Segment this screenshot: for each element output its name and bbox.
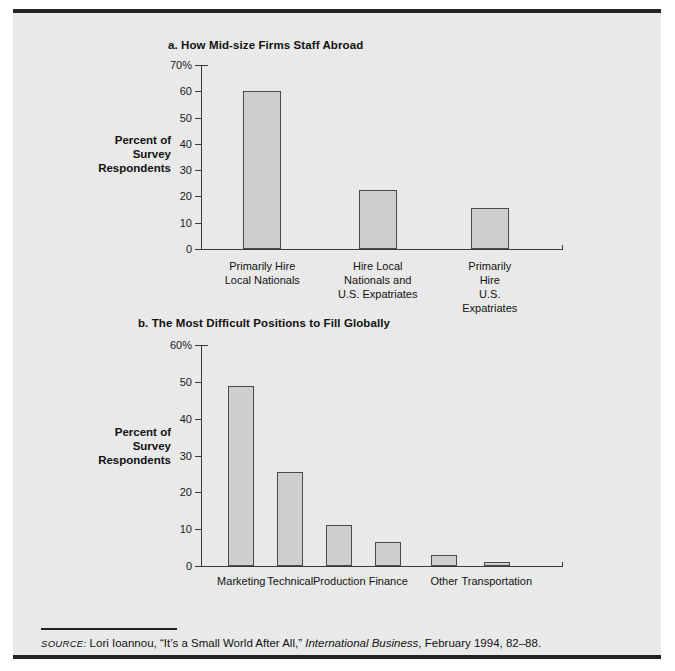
chart-a-y-tick-label: 50 bbox=[180, 112, 192, 124]
chart-b-y-tick-label: 50 bbox=[180, 376, 192, 388]
chart-b-x-axis bbox=[201, 566, 563, 567]
chart-a-y-tick bbox=[195, 65, 201, 66]
category-label: Technical bbox=[267, 574, 313, 588]
category-label: Primarily Hire U.S. Expatriates bbox=[459, 259, 520, 315]
category-label: Production bbox=[313, 574, 366, 588]
chart-b-y-tick bbox=[195, 382, 201, 383]
bar bbox=[228, 386, 254, 566]
bar bbox=[277, 472, 303, 566]
chart-b-title: b. The Most Difficult Positions to Fill … bbox=[138, 317, 390, 329]
chart-a-y-tick bbox=[195, 91, 201, 92]
chart-b-y-tick-label: 10 bbox=[180, 523, 192, 535]
chart-b-y-axis-cap bbox=[201, 345, 208, 346]
chart-b-y-tick bbox=[195, 456, 201, 457]
chart-a-y-axis-title: Percent of Survey Respondents bbox=[51, 133, 171, 175]
chart-b: b. The Most Difficult Positions to Fill … bbox=[13, 313, 661, 613]
chart-a-x-axis-end-tick bbox=[562, 245, 563, 250]
category-label: Hire Local Nationals and U.S. Expatriate… bbox=[338, 259, 417, 301]
source-label: SOURCE: bbox=[41, 638, 86, 649]
chart-b-y-axis-title: Percent of Survey Respondents bbox=[51, 425, 171, 467]
bar bbox=[243, 91, 281, 249]
chart-b-y-tick-label: 0 bbox=[186, 560, 192, 572]
chart-a-y-tick bbox=[195, 196, 201, 197]
chart-a-y-tick bbox=[195, 249, 201, 250]
chart-a-y-tick bbox=[195, 144, 201, 145]
chart-a-y-tick-label: 70% bbox=[170, 59, 192, 71]
chart-a-plot-area: 010203040506070%Primarily Hire Local Nat… bbox=[201, 65, 551, 250]
chart-a-y-tick-label: 20 bbox=[180, 190, 192, 202]
source-divider bbox=[41, 628, 177, 630]
source-rest: , February 1994, 82–88. bbox=[418, 637, 541, 649]
figure-page: a. How Mid-size Firms Staff Abroad 01020… bbox=[13, 9, 661, 659]
chart-b-y-tick bbox=[195, 345, 201, 346]
chart-a-y-tick bbox=[195, 170, 201, 171]
chart-a-y-axis bbox=[201, 65, 202, 250]
chart-a-x-axis bbox=[201, 249, 563, 250]
source-author: Lori Ioannou, “It’s a Small World After … bbox=[86, 637, 305, 649]
chart-b-y-tick-label: 30 bbox=[180, 450, 192, 462]
chart-b-y-tick bbox=[195, 566, 201, 567]
chart-a-y-tick-label: 30 bbox=[180, 164, 192, 176]
chart-b-y-tick bbox=[195, 529, 201, 530]
chart-a-y-tick-label: 10 bbox=[180, 217, 192, 229]
category-label: Finance bbox=[369, 574, 408, 588]
category-label: Primarily Hire Local Nationals bbox=[225, 259, 300, 287]
category-label: Other bbox=[430, 574, 458, 588]
chart-b-y-tick bbox=[195, 419, 201, 420]
source-publication: International Business bbox=[305, 637, 418, 649]
chart-a-y-tick bbox=[195, 118, 201, 119]
figure-container: a. How Mid-size Firms Staff Abroad 01020… bbox=[13, 13, 661, 655]
category-label: Transportation bbox=[461, 574, 532, 588]
chart-a: a. How Mid-size Firms Staff Abroad 01020… bbox=[13, 35, 661, 315]
chart-b-y-tick bbox=[195, 492, 201, 493]
bar bbox=[359, 190, 397, 249]
bar bbox=[326, 525, 352, 566]
bar bbox=[471, 208, 509, 249]
chart-a-y-tick-label: 40 bbox=[180, 138, 192, 150]
chart-b-x-axis-end-tick bbox=[562, 562, 563, 567]
chart-b-y-tick-label: 40 bbox=[180, 413, 192, 425]
category-label: Marketing bbox=[217, 574, 265, 588]
chart-b-y-tick-label: 20 bbox=[180, 486, 192, 498]
bar bbox=[484, 562, 510, 566]
bar bbox=[431, 555, 457, 566]
chart-b-plot-area: 0102030405060%MarketingTechnicalProducti… bbox=[201, 345, 551, 567]
bar bbox=[375, 542, 401, 566]
chart-a-y-tick-label: 60 bbox=[180, 85, 192, 97]
chart-a-y-tick-label: 0 bbox=[186, 243, 192, 255]
chart-b-y-tick-label: 60% bbox=[170, 339, 192, 351]
chart-a-title: a. How Mid-size Firms Staff Abroad bbox=[168, 39, 363, 51]
chart-a-y-tick bbox=[195, 223, 201, 224]
source-note: SOURCE: Lori Ioannou, “It’s a Small Worl… bbox=[41, 637, 641, 649]
chart-b-y-axis bbox=[201, 345, 202, 567]
chart-a-y-axis-cap bbox=[201, 65, 208, 66]
